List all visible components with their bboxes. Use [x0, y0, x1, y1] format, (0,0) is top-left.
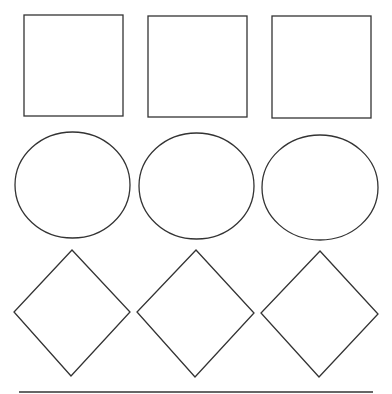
square-2: [148, 16, 247, 117]
shapes-canvas: [0, 0, 392, 394]
square-3: [272, 16, 371, 118]
diamond-1: [14, 250, 130, 376]
diamond-row: [14, 250, 378, 377]
ellipse-row: [15, 132, 378, 240]
square-row: [24, 15, 371, 118]
square-1: [24, 15, 123, 116]
ellipse-2: [139, 133, 254, 239]
diamond-2: [137, 250, 254, 377]
ellipse-1: [15, 132, 130, 238]
diamond-3: [261, 251, 378, 377]
ellipse-3: [262, 135, 378, 240]
